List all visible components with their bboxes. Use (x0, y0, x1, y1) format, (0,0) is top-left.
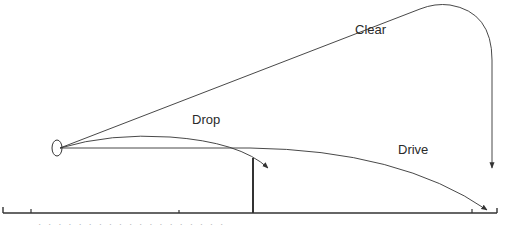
cutoff-caption-text: · · · · · · · · · · · · · · · · · · · (38, 219, 225, 225)
drop-trajectory-arrow (60, 136, 268, 168)
drive-label: Drive (398, 142, 428, 157)
drop-label: Drop (192, 112, 220, 127)
shot-trajectory-diagram (0, 0, 507, 225)
drive-trajectory-arrow (60, 148, 487, 210)
clear-label: Clear (355, 22, 386, 37)
court-floor (3, 207, 497, 213)
